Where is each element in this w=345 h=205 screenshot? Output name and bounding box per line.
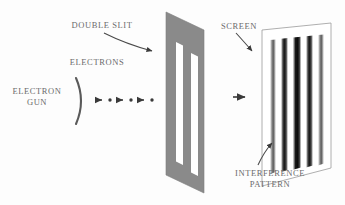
electron-gun-icon [76,78,81,124]
leader-double-slit-icon [104,33,152,51]
label-electron-gun: ELECTRON GUN [6,86,68,107]
electron-beam-icon [95,98,154,101]
label-electrons: ELECTRONS [62,57,132,68]
label-screen: SCREEN [213,21,265,32]
label-double-slit: DOUBLE SLIT [66,20,138,31]
double-slit-barrier [166,12,204,193]
double-slit-diagram: ELECTRON GUN DOUBLE SLIT ELECTRONS SCREE… [0,0,345,205]
label-interference-pattern: INTERFERENCE PATTERN [226,168,314,189]
detector-screen [262,23,331,186]
leader-screen-icon [236,33,252,51]
